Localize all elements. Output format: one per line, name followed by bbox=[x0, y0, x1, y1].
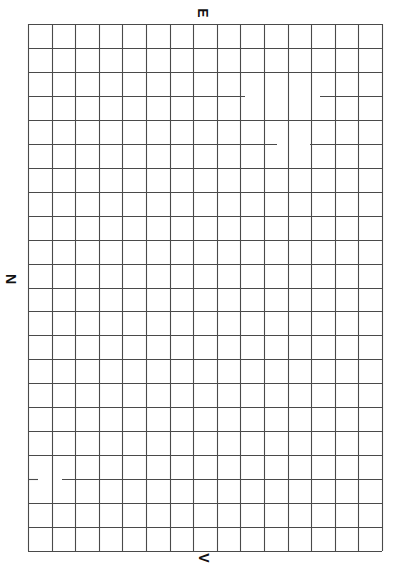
grid-paper bbox=[0, 0, 400, 566]
